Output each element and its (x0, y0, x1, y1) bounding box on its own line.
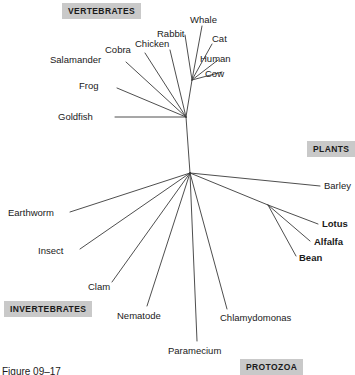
group-badge-vertebrates: VERTEBRATES (62, 3, 141, 19)
branch-chicken-branch (170, 50, 186, 117)
branch-vertebrates-to-mammals (186, 80, 192, 117)
taxon-label-paramecium: Paramecium (168, 345, 221, 356)
taxon-label-frog: Frog (79, 80, 99, 91)
taxon-label-insect: Insect (38, 245, 63, 256)
taxon-label-bean: Bean (299, 252, 322, 263)
branch-lotus-branch (268, 205, 318, 224)
branch-center-to-vertebrates (186, 117, 190, 173)
branch-clam-branch (112, 173, 190, 282)
branch-earthworm-branch (70, 173, 190, 212)
taxon-label-goldfish: Goldfish (58, 111, 93, 122)
branch-nematode-branch (147, 173, 190, 306)
branch-frog-branch (117, 88, 186, 117)
taxon-label-cat: Cat (212, 33, 227, 44)
branch-lines (70, 26, 320, 341)
taxon-label-salamander: Salamander (50, 54, 101, 65)
taxon-label-clam: Clam (88, 281, 110, 292)
branch-paramecium-branch (190, 173, 197, 341)
branch-center-to-legumes (190, 173, 268, 205)
taxon-label-nematode: Nematode (117, 310, 161, 321)
group-badge-plants: PLANTS (307, 141, 355, 157)
figure-caption: Figure 09–17 (2, 366, 61, 375)
taxon-label-cow: Cow (205, 68, 224, 79)
taxon-label-chlamydomonas: Chlamydomonas (220, 312, 291, 323)
taxon-label-earthworm: Earthworm (8, 207, 54, 218)
group-badge-invertebrates: INVERTEBRATES (4, 301, 92, 317)
branch-insect-branch (80, 173, 190, 249)
taxon-label-barley: Barley (324, 180, 351, 191)
taxon-label-chicken: Chicken (135, 38, 169, 49)
taxon-label-alfalfa: Alfalfa (314, 236, 343, 247)
taxon-label-human: Human (200, 53, 231, 64)
taxon-label-cobra: Cobra (105, 44, 131, 55)
group-badge-protozoa: PROTOZOA (240, 359, 303, 375)
taxon-label-whale: Whale (190, 14, 217, 25)
taxon-label-lotus: Lotus (322, 218, 348, 229)
branch-bean-branch (268, 205, 296, 256)
branch-rabbit-branch (185, 35, 192, 80)
branch-barley-branch (190, 173, 320, 186)
phylogenetic-tree-figure: WhaleRabbitCatChickenCobraHumanSalamande… (0, 0, 355, 375)
branch-alfalfa-branch (268, 205, 310, 241)
branch-chlamydomonas-branch (190, 173, 227, 309)
